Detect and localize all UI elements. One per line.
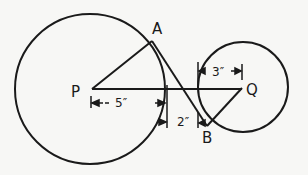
circle-q bbox=[198, 42, 288, 132]
dimension-5in-label: 5″ bbox=[115, 96, 128, 110]
dimension-2in-label: 2″ bbox=[177, 115, 190, 129]
dimension-3in-label: 3″ bbox=[212, 65, 225, 79]
point-label-a: A bbox=[152, 20, 163, 38]
segment-pa bbox=[92, 41, 152, 89]
dimension-5in bbox=[91, 85, 167, 128]
geometry-diagram: 5″ 2″ 3″ P Q A B bbox=[0, 0, 308, 175]
point-label-q: Q bbox=[246, 81, 258, 99]
diagram-canvas: 5″ 2″ 3″ P Q A B bbox=[0, 0, 308, 175]
point-label-p: P bbox=[71, 83, 80, 101]
point-label-b: B bbox=[202, 129, 212, 147]
segment-qb bbox=[207, 88, 242, 126]
